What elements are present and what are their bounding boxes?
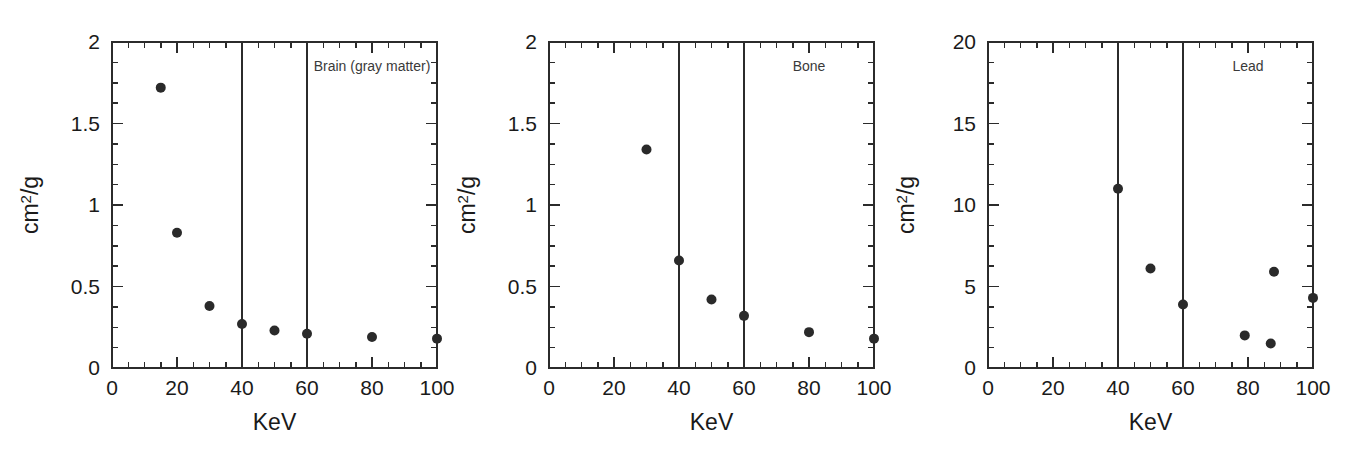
panel-annotation-label: Bone xyxy=(793,58,826,74)
data-point xyxy=(1146,264,1156,274)
y-tick-label: 0.5 xyxy=(71,275,100,298)
x-tick-label: 0 xyxy=(543,376,555,399)
x-tick-label: 0 xyxy=(106,376,118,399)
panel-annotation-label: Brain (gray matter) xyxy=(314,58,431,74)
y-tick-label: 1.5 xyxy=(71,112,100,135)
y-axis-ticks xyxy=(988,42,1313,368)
data-series xyxy=(642,145,880,344)
x-tick-label: 0 xyxy=(982,376,994,399)
data-point xyxy=(674,255,684,265)
x-tick-label: 60 xyxy=(295,376,318,399)
plot-frame xyxy=(549,42,874,368)
x-axis-ticks xyxy=(549,42,874,368)
y-tick-label: 1 xyxy=(88,193,100,216)
y-tick-label: 15 xyxy=(953,112,976,135)
y-tick-label: 0.5 xyxy=(508,275,537,298)
data-point xyxy=(367,332,377,342)
x-tick-label: 40 xyxy=(1106,376,1129,399)
data-point xyxy=(1269,267,1279,277)
chart-panel-lead: 02040608010005101520LeadKeVcm2/g xyxy=(876,0,1336,458)
y-axis-ticks xyxy=(549,42,874,368)
data-point xyxy=(1178,299,1188,309)
x-axis-title: KeV xyxy=(1129,409,1173,435)
chart-panel-bone: 02040608010000.511.52BoneKeVcm2/g xyxy=(437,0,897,458)
y-tick-label: 0 xyxy=(525,356,537,379)
reference-lines xyxy=(242,42,307,368)
x-axis-title: KeV xyxy=(690,409,734,435)
x-tick-label: 60 xyxy=(732,376,755,399)
plot-canvas: 02040608010000.511.52Brain (gray matter)… xyxy=(0,0,460,458)
data-point xyxy=(707,295,717,305)
y-tick-label: 2 xyxy=(88,30,100,53)
data-point xyxy=(172,228,182,238)
data-point xyxy=(1240,330,1250,340)
x-tick-label: 40 xyxy=(667,376,690,399)
y-axis-title: cm2/g xyxy=(17,176,43,234)
y-tick-label: 1 xyxy=(525,193,537,216)
y-tick-label: 2 xyxy=(525,30,537,53)
plot-frame xyxy=(988,42,1313,368)
x-tick-label: 80 xyxy=(1236,376,1259,399)
data-point xyxy=(237,319,247,329)
data-point xyxy=(642,145,652,155)
data-point xyxy=(1266,339,1276,349)
x-tick-label: 60 xyxy=(1171,376,1194,399)
y-axis-title: cm2/g xyxy=(893,176,919,234)
reference-lines xyxy=(1118,42,1183,368)
x-tick-label: 80 xyxy=(360,376,383,399)
y-axis-title: cm2/g xyxy=(454,176,480,234)
data-series xyxy=(1113,184,1318,349)
plot-canvas: 02040608010005101520LeadKeVcm2/g xyxy=(876,0,1336,458)
x-tick-label: 100 xyxy=(1295,376,1330,399)
panel-annotation-label: Lead xyxy=(1232,58,1263,74)
data-point xyxy=(804,327,814,337)
x-axis-title: KeV xyxy=(253,409,297,435)
x-tick-label: 20 xyxy=(602,376,625,399)
y-tick-label: 20 xyxy=(953,30,976,53)
y-tick-label: 5 xyxy=(964,275,976,298)
chart-panel-brain: 02040608010000.511.52Brain (gray matter)… xyxy=(0,0,460,458)
data-point xyxy=(156,83,166,93)
data-series xyxy=(156,83,442,344)
y-tick-label: 0 xyxy=(88,356,100,379)
data-point xyxy=(1308,293,1318,303)
x-tick-label: 20 xyxy=(1041,376,1064,399)
data-point xyxy=(302,329,312,339)
y-tick-label: 1.5 xyxy=(508,112,537,135)
y-tick-label: 10 xyxy=(953,193,976,216)
data-point xyxy=(739,311,749,321)
x-tick-label: 20 xyxy=(165,376,188,399)
x-tick-label: 40 xyxy=(230,376,253,399)
figure-root: 02040608010000.511.52Brain (gray matter)… xyxy=(0,0,1358,458)
y-tick-label: 0 xyxy=(964,356,976,379)
reference-lines xyxy=(679,42,744,368)
data-point xyxy=(1113,184,1123,194)
x-tick-label: 80 xyxy=(797,376,820,399)
data-point xyxy=(270,326,280,336)
data-point xyxy=(205,301,215,311)
x-axis-ticks xyxy=(988,42,1313,368)
plot-canvas: 02040608010000.511.52BoneKeVcm2/g xyxy=(437,0,897,458)
